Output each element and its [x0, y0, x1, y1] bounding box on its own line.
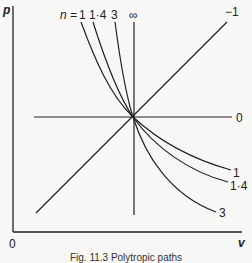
label-top-n3: 3: [111, 9, 118, 21]
path-n-1-4: [93, 22, 228, 182]
label-top-n14: 1·4: [89, 9, 106, 21]
label-n-minus-1: −1: [225, 6, 239, 18]
label-n-1: 1: [233, 167, 240, 179]
label-n-prefix: n =: [60, 9, 77, 21]
label-top-n1: 1: [79, 9, 86, 21]
figure-caption: Fig. 11.3 Polytropic paths: [0, 252, 252, 263]
label-n-1-4: 1·4: [230, 180, 247, 192]
y-axis-label: p: [3, 4, 10, 16]
x-axis-label: v: [238, 237, 245, 249]
n-symbol: n =: [60, 8, 77, 22]
label-n-3: 3: [219, 207, 226, 219]
origin-label: 0: [9, 238, 16, 250]
label-n-0: 0: [236, 112, 243, 124]
label-top-ninf: ∞: [129, 9, 138, 21]
path-n-1: [81, 22, 231, 170]
polytropic-diagram: [0, 0, 252, 263]
